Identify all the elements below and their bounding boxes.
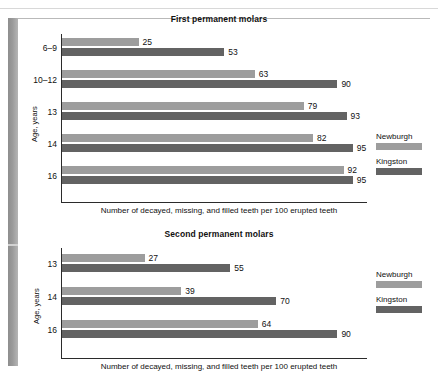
- legend-swatch-kingston[interactable]: [376, 306, 422, 313]
- legend-label-newburgh: Newburgh: [376, 132, 438, 141]
- category-label: 13: [48, 107, 57, 117]
- bar-kingston[interactable]: [62, 144, 353, 152]
- bar-value-newburgh: 27: [149, 254, 158, 262]
- bar-newburgh[interactable]: [62, 70, 255, 78]
- bar-kingston[interactable]: [62, 112, 347, 120]
- legend-label-kingston: Kingston: [376, 157, 438, 166]
- bar-kingston[interactable]: [62, 264, 230, 272]
- y-axis-title-second: Age, years: [32, 288, 41, 324]
- y-axis-title-first: Age, years: [30, 106, 39, 142]
- legend-label-kingston: Kingston: [376, 295, 438, 304]
- x-axis-title-first: Number of decayed, missing, and filled t…: [0, 206, 438, 215]
- bar-newburgh[interactable]: [62, 320, 258, 328]
- chart-second-permanent-molars: Second permanent molars Age, years 13 27…: [0, 226, 438, 374]
- bar-kingston[interactable]: [62, 80, 337, 88]
- legend-swatch-kingston[interactable]: [376, 168, 422, 175]
- page-top-rule-outer: [0, 8, 438, 9]
- bar-value-kingston: 95: [357, 176, 366, 184]
- bar-value-newburgh: 39: [185, 287, 194, 295]
- bar-kingston[interactable]: [62, 297, 276, 305]
- legend-second: Newburgh Kingston: [376, 270, 438, 320]
- category-label: 16: [48, 171, 57, 181]
- bar-value-kingston: 90: [341, 330, 350, 338]
- bar-value-newburgh: 64: [262, 320, 271, 328]
- chart-title-second: Second permanent molars: [0, 229, 438, 239]
- bar-value-newburgh: 63: [259, 70, 268, 78]
- category-label: 14: [48, 139, 57, 149]
- bar-value-kingston: 70: [280, 297, 289, 305]
- plot-area-second: 13 27 55 14 39 70 16 64 90: [61, 248, 367, 359]
- bar-newburgh[interactable]: [62, 38, 139, 46]
- bar-newburgh[interactable]: [62, 166, 344, 174]
- category-label: 6–9: [43, 43, 57, 53]
- bar-value-newburgh: 79: [308, 102, 317, 110]
- category-label: 10–12: [33, 75, 57, 85]
- bar-newburgh[interactable]: [62, 287, 181, 295]
- category-label: 14: [48, 292, 57, 302]
- legend-swatch-newburgh[interactable]: [376, 281, 422, 288]
- category-label: 13: [48, 259, 57, 269]
- category-label: 16: [48, 325, 57, 335]
- bar-value-newburgh: 92: [348, 166, 357, 174]
- legend-swatch-newburgh[interactable]: [376, 143, 422, 150]
- bar-value-newburgh: 82: [317, 134, 326, 142]
- bar-value-kingston: 55: [234, 264, 243, 272]
- plot-area-first: 6–9 25 53 10–12 63 90 13 79 93 14 82 95: [61, 34, 367, 203]
- legend-first: Newburgh Kingston: [376, 132, 438, 182]
- bar-newburgh[interactable]: [62, 102, 304, 110]
- bar-kingston[interactable]: [62, 330, 337, 338]
- bar-value-kingston: 95: [357, 144, 366, 152]
- legend-label-newburgh: Newburgh: [376, 270, 438, 279]
- bar-value-newburgh: 25: [143, 38, 152, 46]
- bar-value-kingston: 93: [351, 112, 360, 120]
- bar-kingston[interactable]: [62, 176, 353, 184]
- bar-value-kingston: 53: [228, 48, 237, 56]
- bar-newburgh[interactable]: [62, 134, 313, 142]
- chart-title-first: First permanent molars: [0, 14, 438, 24]
- bar-value-kingston: 90: [341, 80, 350, 88]
- x-axis-title-second: Number of decayed, missing, and filled t…: [0, 362, 438, 371]
- chart-first-permanent-molars: First permanent molars Age, years 6–9 25…: [0, 10, 438, 220]
- bar-kingston[interactable]: [62, 48, 224, 56]
- bar-newburgh[interactable]: [62, 254, 145, 262]
